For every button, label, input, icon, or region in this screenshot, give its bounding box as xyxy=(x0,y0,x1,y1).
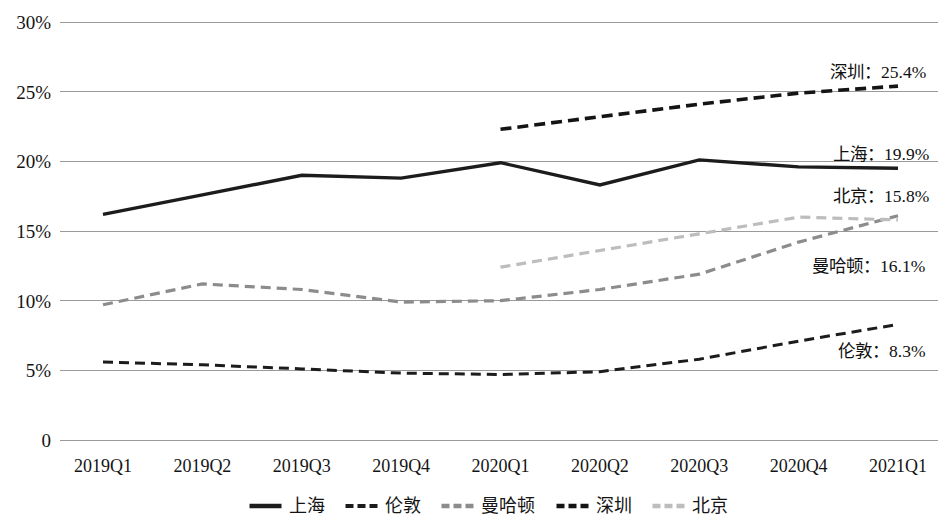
series-annotation-曼哈顿: 曼哈顿：16.1% xyxy=(812,256,925,276)
legend-label-伦敦: 伦敦 xyxy=(385,496,421,516)
y-axis-tick-label: 30% xyxy=(16,12,51,33)
series-annotation-上海: 上海：19.9% xyxy=(833,144,929,164)
x-axis-tick-label: 2020Q1 xyxy=(472,456,530,476)
legend-label-曼哈顿: 曼哈顿 xyxy=(481,496,535,516)
chart-container: 30%25%20%15%10%5%0 2019Q12019Q22019Q3201… xyxy=(0,0,947,527)
x-axis-tick-label: 2020Q3 xyxy=(670,456,728,476)
y-axis-tick-label: 25% xyxy=(16,82,51,103)
x-axis-tick-labels: 2019Q12019Q22019Q32019Q42020Q12020Q22020… xyxy=(74,456,927,476)
legend-label-北京: 北京 xyxy=(692,496,728,516)
line-chart: 30%25%20%15%10%5%0 2019Q12019Q22019Q3201… xyxy=(0,0,947,527)
legend-label-上海: 上海 xyxy=(289,496,325,516)
series-annotation-伦敦: 伦敦：8.3% xyxy=(838,341,925,361)
series-annotation-深圳: 深圳：25.4% xyxy=(830,62,926,82)
x-axis-tick-label: 2019Q2 xyxy=(173,456,231,476)
legend-label-深圳: 深圳 xyxy=(596,496,632,516)
y-axis-tick-label: 20% xyxy=(16,151,51,172)
x-axis-tick-label: 2021Q1 xyxy=(869,456,927,476)
y-axis-tick-label: 15% xyxy=(16,221,51,242)
x-axis-tick-label: 2019Q1 xyxy=(74,456,132,476)
x-axis-tick-label: 2019Q4 xyxy=(372,456,430,476)
y-axis-tick-label: 10% xyxy=(16,291,51,312)
x-axis-tick-label: 2020Q2 xyxy=(571,456,629,476)
y-axis-tick-label: 0 xyxy=(42,430,52,451)
chart-background xyxy=(0,0,947,527)
y-axis-tick-label: 5% xyxy=(26,360,52,381)
x-axis-tick-label: 2019Q3 xyxy=(273,456,331,476)
series-annotation-北京: 北京：15.8% xyxy=(833,186,929,206)
x-axis-tick-label: 2020Q4 xyxy=(770,456,828,476)
